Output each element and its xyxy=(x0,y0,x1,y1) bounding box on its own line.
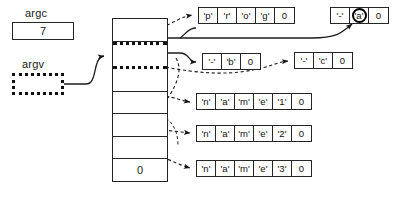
string-name3-char-1: 'a' xyxy=(216,161,235,176)
array-cell-5[interactable] xyxy=(113,137,167,160)
char-glyph: '-' xyxy=(337,10,344,21)
char-glyph: 0 xyxy=(299,128,304,139)
argv-box xyxy=(12,73,64,95)
string-dash-b: '-' 'b' 0 xyxy=(202,53,261,70)
char-glyph: 'm' xyxy=(238,96,250,107)
char-glyph: 'a' xyxy=(221,96,230,107)
string-name1-char-3: 'e' xyxy=(254,94,273,109)
char-glyph: '2' xyxy=(278,128,287,139)
argv-pointer-array: 0 xyxy=(112,18,168,182)
string-name1-char-1: 'a' xyxy=(216,94,235,109)
string-name3-char-2: 'm' xyxy=(235,161,254,176)
char-glyph: 'm' xyxy=(238,128,250,139)
diagram-canvas: argc 7 argv 0 'p' 'r' xyxy=(0,0,402,200)
string-dash-a: '-' 'a' 0 xyxy=(330,7,389,24)
string-name2-char-0: 'n' xyxy=(197,126,216,141)
string-dash-a-char-1-circled: 'a' xyxy=(350,8,369,23)
char-glyph: 0 xyxy=(376,10,381,21)
connector-prog-down xyxy=(180,28,196,38)
string-name1-char-2: 'm' xyxy=(235,94,254,109)
string-prog-char-3: 'g' xyxy=(256,8,275,23)
string-dash-b-char-0: '-' xyxy=(203,54,222,69)
char-glyph: 0 xyxy=(299,163,304,174)
string-name3-char-0: 'n' xyxy=(197,161,216,176)
string-prog-char-1: 'r' xyxy=(218,8,237,23)
string-dash-c-char-1: 'c' xyxy=(314,53,333,68)
connector-cell3-riser xyxy=(168,58,179,98)
string-name2-char-4: '2' xyxy=(273,126,292,141)
char-glyph: '1' xyxy=(278,96,287,107)
char-glyph: 'b' xyxy=(227,56,236,67)
char-glyph: '-' xyxy=(209,56,216,67)
string-name1-char-5: 0 xyxy=(292,94,311,109)
string-dash-c-char-2: 0 xyxy=(333,53,352,68)
char-glyph: 'a' xyxy=(221,128,230,139)
string-name2-char-5: 0 xyxy=(292,126,311,141)
char-glyph: 'e' xyxy=(259,163,268,174)
arrow-to-dash-a xyxy=(168,24,352,38)
string-name3-char-3: 'e' xyxy=(254,161,273,176)
argc-value: 7 xyxy=(40,25,46,37)
string-prog-char-2: 'o' xyxy=(237,8,256,23)
string-name1: 'n' 'a' 'm' 'e' '1' 0 xyxy=(196,93,312,110)
char-glyph: 'n' xyxy=(202,96,211,107)
char-glyph: 0 xyxy=(299,96,304,107)
char-glyph: 0 xyxy=(340,55,345,66)
char-glyph: 'e' xyxy=(259,128,268,139)
string-dash-c: '-' 'c' 0 xyxy=(294,52,353,69)
char-glyph: 'm' xyxy=(238,163,250,174)
array-cell-4[interactable] xyxy=(113,114,167,137)
argv-label: argv xyxy=(22,58,44,70)
argc-box: 7 xyxy=(12,22,74,40)
arrow-cell1-to-dash-b xyxy=(166,53,196,62)
argc-label: argc xyxy=(25,7,47,19)
char-glyph: '-' xyxy=(301,55,308,66)
string-dash-b-char-1: 'b' xyxy=(222,54,241,69)
char-glyph: 'g' xyxy=(261,10,270,21)
array-cell-6-value: 0 xyxy=(137,164,143,176)
char-glyph: 0 xyxy=(282,10,287,21)
string-name2-char-1: 'a' xyxy=(216,126,235,141)
array-cell-2[interactable] xyxy=(113,69,167,92)
string-name2-char-3: 'e' xyxy=(254,126,273,141)
char-glyph: 'p' xyxy=(204,10,213,21)
string-name2-char-2: 'm' xyxy=(235,126,254,141)
string-name2: 'n' 'a' 'm' 'e' '2' 0 xyxy=(196,125,312,142)
char-glyph: 'a' xyxy=(355,10,364,21)
arrow-argv-to-array xyxy=(62,56,104,84)
string-name1-char-0: 'n' xyxy=(197,94,216,109)
char-glyph: '3' xyxy=(278,163,287,174)
char-glyph: 'n' xyxy=(202,128,211,139)
string-prog: 'p' 'r' 'o' 'g' 0 xyxy=(198,7,295,24)
string-dash-c-char-0: '-' xyxy=(295,53,314,68)
array-cell-1[interactable] xyxy=(113,42,167,70)
string-name3-char-5: 0 xyxy=(292,161,311,176)
array-cell-0[interactable] xyxy=(113,19,167,42)
string-dash-a-char-2: 0 xyxy=(369,8,388,23)
char-glyph: 'n' xyxy=(202,163,211,174)
char-glyph: 'o' xyxy=(242,10,251,21)
array-cell-3[interactable] xyxy=(113,92,167,115)
char-glyph: 'a' xyxy=(221,163,230,174)
string-dash-a-char-0: '-' xyxy=(331,8,350,23)
char-glyph: 'c' xyxy=(319,55,327,66)
char-glyph: 'e' xyxy=(259,96,268,107)
string-prog-char-0: 'p' xyxy=(199,8,218,23)
array-cell-6[interactable]: 0 xyxy=(113,159,167,181)
string-dash-b-char-2: 0 xyxy=(241,54,260,69)
string-name3-char-4: '3' xyxy=(273,161,292,176)
char-glyph: 0 xyxy=(248,56,253,67)
string-prog-char-4: 0 xyxy=(275,8,294,23)
string-name1-char-4: '1' xyxy=(273,94,292,109)
string-name3: 'n' 'a' 'm' 'e' '3' 0 xyxy=(196,160,312,177)
char-glyph: 'r' xyxy=(224,10,231,21)
